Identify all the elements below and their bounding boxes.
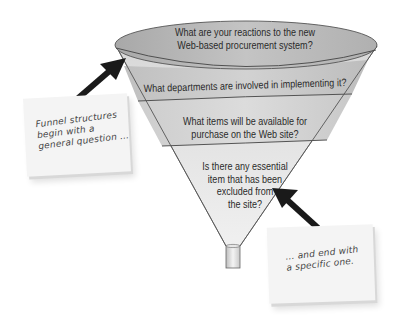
level-1-text: What are your reactions to the new Web-b… (163, 26, 326, 51)
level-3-line-1: What items will be available for (163, 115, 326, 128)
funnel-spout (226, 244, 240, 268)
annotation-right-text: … and end with a specific one. (285, 244, 360, 274)
level-4-text: Is there any essential item that has bee… (185, 160, 305, 210)
annotation-note-right: … and end with a specific one. (267, 224, 376, 304)
level-4-line-2: item that has been (185, 173, 305, 186)
annotation-note-left: Funnel structures begin with a general q… (23, 93, 131, 176)
level-1-line-1: What are your reactions to the new (163, 26, 326, 39)
annotation-left-text: Funnel structures begin with a general q… (35, 108, 130, 152)
level-1-line-2: Web-based procurement system? (163, 39, 326, 52)
level-3-text: What items will be available for purchas… (163, 115, 326, 140)
level-3-line-2: purchase on the Web site? (163, 128, 326, 141)
level-4-line-1: Is there any essential (185, 160, 305, 173)
funnel-diagram: What are your reactions to the new Web-b… (0, 0, 397, 319)
level-4-line-4: the site? (185, 198, 305, 211)
level-4-line-3: excluded from (185, 185, 305, 198)
